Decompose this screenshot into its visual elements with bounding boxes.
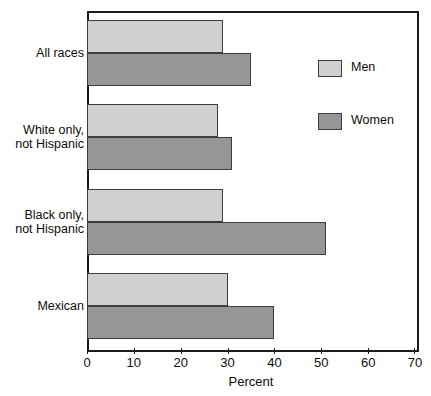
bar-men-3 (87, 273, 228, 306)
bar-women-3 (87, 306, 274, 339)
bar-men-0 (87, 20, 223, 53)
bar-women-2 (87, 222, 326, 255)
x-tick-label-40: 40 (267, 355, 281, 370)
legend-item-women: Women (318, 111, 418, 133)
x-tick-label-30: 30 (220, 355, 234, 370)
x-tick-label-60: 60 (361, 355, 375, 370)
bar-women-0 (87, 53, 251, 86)
category-label-3: Mexican (0, 299, 84, 313)
legend-item-men: Men (318, 58, 418, 80)
x-tick-label-20: 20 (173, 355, 187, 370)
bar-men-1 (87, 104, 218, 137)
legend-label-men: Men (351, 60, 375, 74)
x-axis: Percent 010203040506070 (87, 348, 415, 396)
category-label-1: White only, not Hispanic (0, 123, 84, 151)
bar-women-1 (87, 137, 232, 170)
x-tick-50 (321, 348, 322, 354)
x-tick-label-0: 0 (83, 355, 90, 370)
x-tick-label-70: 70 (408, 355, 422, 370)
legend-swatch-women (318, 113, 342, 130)
x-tick-30 (228, 348, 229, 354)
x-tick-60 (368, 348, 369, 354)
legend-label-women: Women (351, 113, 394, 127)
category-axis-labels: All racesWhite only, not HispanicBlack o… (0, 11, 84, 348)
x-axis-title: Percent (87, 374, 415, 389)
bar-men-2 (87, 189, 223, 222)
category-label-0: All races (0, 46, 84, 60)
x-tick-0 (87, 348, 88, 354)
x-tick-40 (274, 348, 275, 354)
legend-swatch-men (318, 60, 342, 77)
x-tick-20 (181, 348, 182, 354)
bar-chart-figure: All racesWhite only, not HispanicBlack o… (0, 0, 431, 396)
x-tick-label-10: 10 (127, 355, 141, 370)
category-label-2: Black only, not Hispanic (0, 208, 84, 236)
x-tick-10 (134, 348, 135, 354)
x-tick-70 (414, 348, 415, 354)
chart-legend: MenWomen (318, 58, 418, 164)
x-tick-label-50: 50 (314, 355, 328, 370)
